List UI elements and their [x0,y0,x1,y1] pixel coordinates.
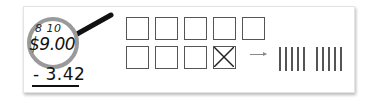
tally-mark [316,47,318,71]
dollar-square [242,17,265,40]
minuend-amount: $9.00 [29,34,75,54]
arrow-icon [250,54,266,55]
tally-mark [328,47,330,71]
dollar-square [155,17,178,40]
dollar-square [184,46,207,69]
tally-mark [279,47,281,71]
tally-mark [322,47,324,71]
tally-mark [334,47,336,71]
dollar-square [184,17,207,40]
crossed-dollar-square [213,46,236,69]
dollar-square [126,46,149,69]
tally-mark [285,47,287,71]
tally-mark [297,47,299,71]
dollar-square [155,46,178,69]
tally-mark [340,47,342,71]
subtraction-underline [32,85,79,87]
dollar-square [213,17,236,40]
dollar-square [126,17,149,40]
subtrahend-amount: - 3.42 [33,64,85,84]
tally-mark [303,47,305,71]
tally-mark [291,47,293,71]
cross-icon [214,47,234,67]
